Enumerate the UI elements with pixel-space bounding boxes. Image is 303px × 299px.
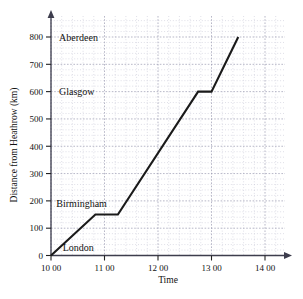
y-tick-label: 0: [39, 251, 44, 261]
chart-canvas: 0100200300400500600700800 10 0011 0012 0…: [0, 0, 303, 299]
y-tick-label: 600: [30, 87, 44, 97]
y-tick-label: 300: [30, 169, 44, 179]
y-tick-label: 400: [30, 142, 44, 152]
x-tick-label: 12 00: [148, 263, 169, 273]
y-tick-label: 100: [30, 223, 44, 233]
y-tick-label: 200: [30, 196, 44, 206]
x-tick-label: 13 00: [201, 263, 222, 273]
x-axis-title: Time: [158, 275, 178, 285]
city-label-glasgow: Glasgow: [59, 86, 95, 97]
city-label-aberdeen: Aberdeen: [59, 32, 98, 43]
city-label-london: London: [63, 242, 94, 253]
y-axis-ticks: [46, 37, 51, 256]
y-tick-label: 500: [30, 114, 44, 124]
x-axis-tick-labels: 10 0011 0012 0013 0014 00: [41, 263, 276, 273]
city-annotations: AberdeenGlasgowBirminghamLondon: [56, 32, 107, 253]
grid-minor-lines: [51, 16, 285, 256]
x-tick-label: 11 00: [95, 263, 115, 273]
y-axis-tick-labels: 0100200300400500600700800: [30, 32, 44, 260]
x-axis-arrow-icon: [284, 252, 292, 259]
grid-major-lines: [51, 16, 285, 256]
city-label-birmingham: Birmingham: [56, 198, 107, 209]
y-axis-arrow-icon: [48, 10, 55, 18]
x-axis-ticks: [51, 256, 265, 261]
distance-time-chart: 0100200300400500600700800 10 0011 0012 0…: [0, 0, 303, 299]
x-tick-label: 10 00: [41, 263, 62, 273]
y-axis-title: Distance from Heathrow (km): [9, 88, 20, 203]
x-tick-label: 14 00: [255, 263, 276, 273]
y-tick-label: 800: [30, 32, 44, 42]
y-tick-label: 700: [30, 60, 44, 70]
